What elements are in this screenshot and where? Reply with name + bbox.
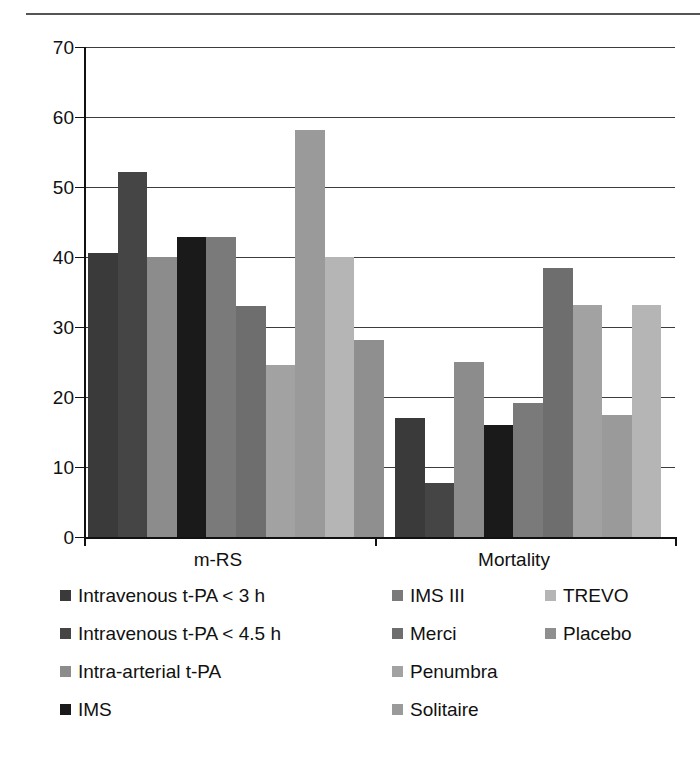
bar-m-rs-trevo — [325, 257, 355, 537]
figure-container: 010203040506070 m-RSMortality Intravenou… — [0, 0, 700, 758]
bar-m-rs-placebo — [354, 340, 384, 537]
y-tick-20 — [75, 397, 84, 398]
legend-swatch-icon — [60, 590, 71, 601]
legend-swatch-icon — [392, 628, 403, 639]
bar-mortality-intra-arterial-t-pa — [454, 362, 484, 537]
legend-item-label: Intravenous t-PA < 4.5 h — [78, 624, 281, 643]
bar-mortality-solitaire — [602, 415, 632, 537]
bar-m-rs-solitaire — [295, 130, 325, 537]
legend-item-label: IMS III — [410, 586, 465, 605]
legend-item-penumbra[interactable]: Penumbra — [392, 652, 542, 690]
legend-item-label: Merci — [410, 624, 456, 643]
bar-mortality-trevo — [632, 305, 662, 537]
y-tick-0 — [75, 537, 84, 538]
x-axis-tick-2 — [675, 537, 677, 546]
legend-item-label: Placebo — [563, 624, 632, 643]
y-tick-label-70: 70 — [53, 38, 74, 57]
y-tick-60 — [75, 117, 84, 118]
figure-top-rule — [26, 13, 700, 15]
bar-mortality-intravenous-t-pa-4-5-h — [425, 483, 455, 537]
legend-swatch-icon — [60, 666, 71, 677]
y-tick-label-20: 20 — [53, 388, 74, 407]
bar-m-rs-merci — [236, 306, 266, 537]
bars-layer — [84, 47, 675, 537]
y-tick-label-10: 10 — [53, 458, 74, 477]
x-axis-tick-0 — [84, 537, 86, 546]
x-axis-group-label-mortality: Mortality — [478, 549, 550, 571]
bar-mortality-penumbra — [573, 305, 603, 537]
y-tick-40 — [75, 257, 84, 258]
legend-item-solitaire[interactable]: Solitaire — [392, 690, 542, 728]
legend-swatch-icon — [392, 704, 403, 715]
bar-mortality-merci — [543, 268, 573, 537]
y-tick-10 — [75, 467, 84, 468]
bar-m-rs-intravenous-t-pa-4-5-h — [118, 172, 148, 537]
bar-m-rs-penumbra — [266, 365, 296, 537]
legend-item-ims[interactable]: IMS — [60, 690, 360, 728]
y-tick-50 — [75, 187, 84, 188]
legend-swatch-icon — [392, 666, 403, 677]
y-tick-70 — [75, 47, 84, 48]
bar-m-rs-ims-iii — [206, 237, 236, 537]
legend-column-1: Intravenous t-PA < 3 hIntravenous t-PA <… — [60, 576, 360, 728]
y-tick-label-50: 50 — [53, 178, 74, 197]
legend-item-label: Intra-arterial t-PA — [78, 662, 221, 681]
legend-swatch-icon — [545, 628, 556, 639]
legend-item-label: Penumbra — [410, 662, 498, 681]
bar-m-rs-intra-arterial-t-pa — [147, 257, 177, 537]
bar-mortality-intravenous-t-pa-3-h — [395, 418, 425, 537]
y-tick-label-30: 30 — [53, 318, 74, 337]
bar-mortality-ims — [484, 425, 514, 537]
legend-item-merci[interactable]: Merci — [392, 614, 542, 652]
bar-m-rs-ims — [177, 237, 207, 537]
legend-item-label: Intravenous t-PA < 3 h — [78, 586, 265, 605]
y-tick-label-60: 60 — [53, 108, 74, 127]
x-axis-line — [84, 537, 675, 539]
bar-m-rs-intravenous-t-pa-3-h — [88, 253, 118, 537]
y-tick-30 — [75, 327, 84, 328]
legend-item-trevo[interactable]: TREVO — [545, 576, 695, 614]
legend-item-placebo[interactable]: Placebo — [545, 614, 695, 652]
legend-item-label: IMS — [78, 700, 112, 719]
legend-item-intravenous-t-pa-3-h[interactable]: Intravenous t-PA < 3 h — [60, 576, 360, 614]
x-axis-tick-1 — [375, 537, 377, 546]
legend-item-intravenous-t-pa-4-5-h[interactable]: Intravenous t-PA < 4.5 h — [60, 614, 360, 652]
legend-item-label: TREVO — [563, 586, 628, 605]
y-tick-label-0: 0 — [63, 528, 74, 547]
legend-column-3: TREVOPlacebo — [545, 576, 695, 652]
legend-item-ims-iii[interactable]: IMS III — [392, 576, 542, 614]
x-axis-group-label-m-rs: m-RS — [194, 549, 243, 571]
legend-column-2: IMS IIIMerciPenumbraSolitaire — [392, 576, 542, 728]
bar-mortality-ims-iii — [513, 403, 543, 537]
legend-swatch-icon — [60, 628, 71, 639]
legend-item-intra-arterial-t-pa[interactable]: Intra-arterial t-PA — [60, 652, 360, 690]
legend-swatch-icon — [545, 590, 556, 601]
legend-swatch-icon — [60, 704, 71, 715]
y-tick-label-40: 40 — [53, 248, 74, 267]
legend-item-label: Solitaire — [410, 700, 479, 719]
chart-legend: Intravenous t-PA < 3 hIntravenous t-PA <… — [0, 576, 700, 756]
y-axis-tick-labels: 010203040506070 — [0, 47, 74, 537]
legend-swatch-icon — [392, 590, 403, 601]
